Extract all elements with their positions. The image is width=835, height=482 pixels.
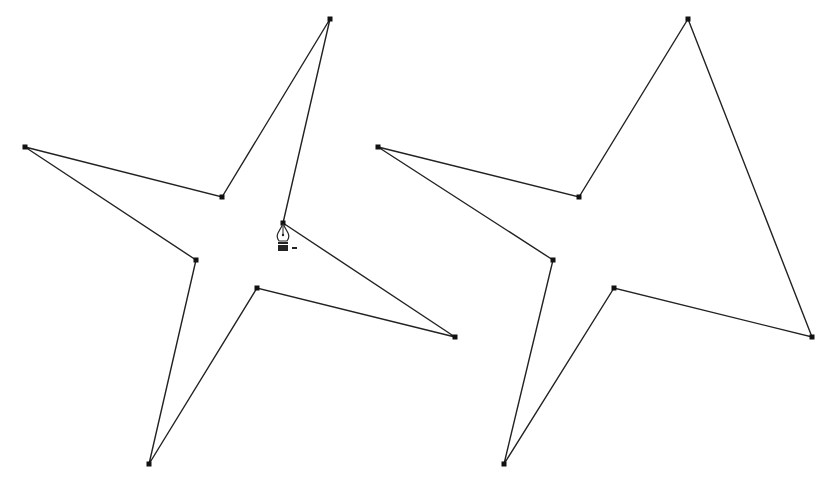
minus-icon	[292, 247, 297, 249]
pen-delete-anchor-icon	[277, 224, 297, 251]
cropped-caption	[10, 474, 825, 482]
anchor-point	[255, 286, 260, 291]
anchor-point	[686, 17, 691, 22]
anchor-point	[551, 258, 556, 263]
figure-canvas	[0, 0, 835, 482]
anchor-point	[220, 195, 225, 200]
left-star-path	[25, 19, 455, 464]
anchor-point	[810, 335, 815, 340]
anchor-point	[328, 17, 333, 22]
anchor-point	[453, 335, 458, 340]
anchor-point	[23, 145, 28, 150]
anchor-point	[376, 145, 381, 150]
anchor-point	[502, 462, 507, 467]
right-anchor-points	[376, 17, 815, 467]
left-anchor-points	[23, 17, 458, 467]
anchor-point	[194, 258, 199, 263]
anchor-point	[612, 286, 617, 291]
right-star-path	[378, 19, 812, 464]
anchor-point	[147, 462, 152, 467]
anchor-point	[577, 195, 582, 200]
